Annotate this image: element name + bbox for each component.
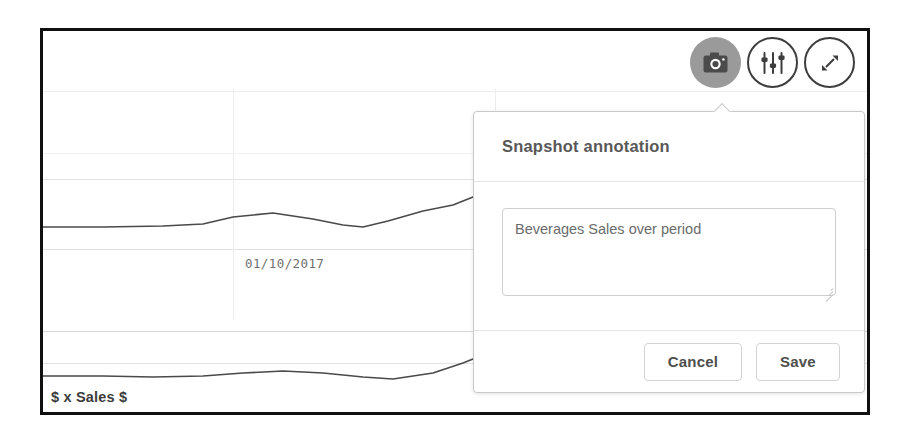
sliders-icon bbox=[760, 51, 786, 75]
chart-x-tick-label: 01/10/2017 bbox=[245, 256, 324, 271]
snapshot-annotation-popover: Snapshot annotation Cancel Save bbox=[473, 111, 865, 393]
annotation-field-wrapper bbox=[502, 208, 836, 300]
settings-button[interactable] bbox=[747, 37, 798, 88]
fullscreen-button[interactable] bbox=[804, 37, 855, 88]
popover-footer: Cancel Save bbox=[474, 330, 864, 392]
cancel-button[interactable]: Cancel bbox=[644, 343, 742, 381]
expand-icon bbox=[818, 51, 842, 75]
snapshot-button[interactable] bbox=[690, 37, 741, 88]
camera-icon bbox=[703, 52, 728, 73]
popover-title: Snapshot annotation bbox=[502, 137, 670, 156]
annotation-textarea[interactable] bbox=[502, 208, 836, 296]
chart-x-axis-title: $ x Sales $ bbox=[51, 389, 127, 405]
popover-body bbox=[474, 182, 864, 300]
save-button[interactable]: Save bbox=[756, 343, 840, 381]
popover-pointer bbox=[713, 103, 731, 112]
chart-object-frame: 01/10/2017 $ x Sales $ bbox=[40, 28, 870, 415]
popover-header: Snapshot annotation bbox=[474, 112, 864, 182]
chart-toolbar bbox=[690, 37, 855, 88]
